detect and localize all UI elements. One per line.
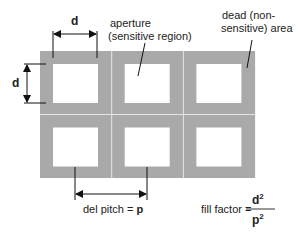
numerator-exponent: 2 bbox=[259, 192, 263, 201]
aperture-cell bbox=[53, 64, 98, 103]
label-aperture-line1: aperture bbox=[110, 17, 151, 29]
pixel-grid bbox=[40, 51, 255, 178]
pitch-text: del pitch = bbox=[83, 203, 137, 215]
aperture-cell bbox=[125, 128, 170, 167]
aperture-cell bbox=[125, 64, 170, 103]
label-d-left: d bbox=[12, 77, 19, 89]
label-dead-line1: dead (non- bbox=[222, 9, 275, 21]
label-d-top: d bbox=[71, 15, 78, 27]
aperture-cell bbox=[196, 64, 241, 103]
fill-numerator: d2 bbox=[252, 191, 264, 206]
denominator-exponent: 2 bbox=[259, 212, 263, 221]
label-pitch: del pitch = p bbox=[83, 203, 143, 215]
fill-denominator: p2 bbox=[252, 211, 264, 226]
aperture-cell bbox=[196, 128, 241, 167]
pitch-symbol: p bbox=[137, 203, 144, 215]
label-aperture-line2: (sensitive region) bbox=[108, 30, 192, 42]
label-fill-factor: fill factor = bbox=[201, 203, 251, 215]
label-dead-line2: sensitive) area bbox=[221, 22, 293, 34]
aperture-cell bbox=[53, 128, 98, 167]
